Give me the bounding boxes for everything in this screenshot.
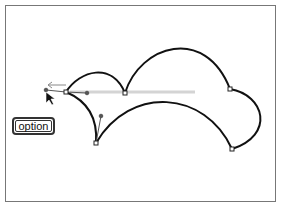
arrow-cursor-icon [46,92,55,105]
path-segment-right-curve[interactable] [230,89,260,149]
handle-point[interactable] [99,114,103,118]
drag-direction-icon [48,82,66,88]
path-segment-left-curve[interactable] [66,92,96,143]
anchor-point[interactable] [94,141,98,145]
path-segment-large-arch[interactable] [125,49,230,93]
option-key-badge: option [12,117,55,135]
path-segment-lower-arch[interactable] [96,102,232,149]
anchor-point[interactable] [230,147,234,151]
bezier-canvas[interactable] [0,0,283,208]
handle-point[interactable] [44,88,48,92]
handle-line [46,90,66,92]
anchor-point[interactable] [228,87,232,91]
anchor-point[interactable] [64,90,68,94]
anchor-point[interactable] [123,91,127,95]
handle-point[interactable] [85,91,89,95]
path-segment-small-arch[interactable] [66,73,125,93]
bezier-path[interactable] [66,49,260,149]
option-key-label: option [15,120,52,132]
